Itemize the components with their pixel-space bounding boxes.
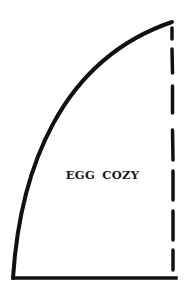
- pattern-title: EGG COZY: [0, 168, 191, 182]
- egg-cozy-pattern: [0, 0, 191, 298]
- fold-line-dashed: [172, 28, 173, 270]
- curved-edge: [13, 22, 172, 278]
